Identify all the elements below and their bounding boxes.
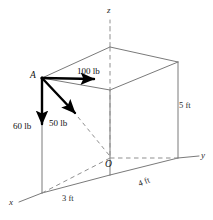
- x-axis-label: x: [9, 198, 13, 207]
- origin-label: O: [105, 160, 112, 170]
- corner-a-dot: [40, 76, 43, 79]
- dimension-5ft-label: 5 ft: [179, 101, 191, 110]
- statics-figure: z y x O A 3 ft 4 ft 5 ft 100 lb 60 lb 50…: [0, 0, 213, 220]
- dimension-3ft-label: 3 ft: [62, 194, 74, 203]
- z-axis-label: z: [107, 6, 111, 15]
- loa-dashed-to-o: [78, 117, 109, 155]
- force-100lb-arrow: [42, 78, 94, 79]
- edge-hidden-o-to-frontbottom: [42, 158, 110, 193]
- force-60lb-label: 60 lb: [13, 122, 31, 131]
- force-50lb-line-of-action: [78, 117, 109, 155]
- force-50lb-label: 50 lb: [49, 119, 67, 128]
- edge-bottom-front-left: [42, 175, 110, 193]
- force-100lb-label: 100 lb: [77, 67, 100, 76]
- y-axis-line: [178, 156, 199, 158]
- y-axis-label: y: [201, 151, 205, 160]
- corner-a-label: A: [30, 71, 36, 81]
- edge-top-backleft-to-backright: [110, 47, 178, 62]
- x-axis-line: [19, 193, 42, 202]
- box-diagram-svg: [0, 0, 213, 220]
- edge-bottom-front-right: [110, 158, 178, 175]
- edge-top-backright-to-frontright: [110, 62, 178, 90]
